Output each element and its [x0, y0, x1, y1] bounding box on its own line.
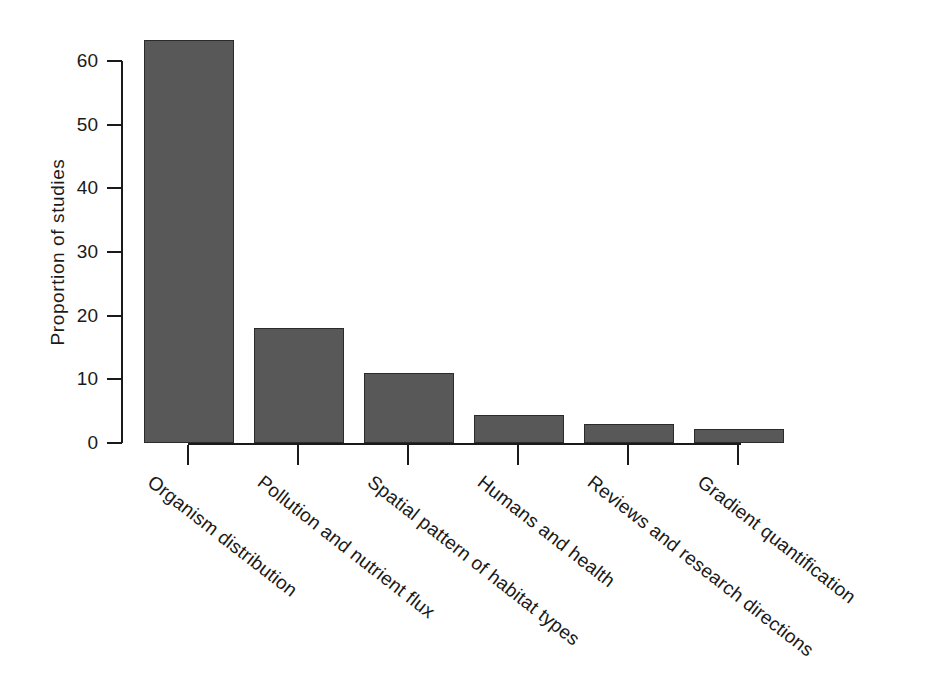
y-tick-label-text: 20	[40, 306, 98, 325]
y-tick-label-text: 0	[40, 433, 98, 452]
y-tick-mark	[107, 187, 122, 189]
y-tick-label-text: 30	[40, 242, 98, 261]
bar-chart: Proportion of studies 0102030405060 Orga…	[0, 0, 937, 676]
x-axis-label: Spatial pattern of habitat types	[364, 472, 583, 649]
y-tick-mark	[107, 251, 122, 253]
y-tick-label: 40	[40, 178, 98, 198]
y-tick-mark	[107, 378, 122, 380]
y-tick-label-text: 40	[40, 178, 98, 197]
y-tick-label: 20	[40, 306, 98, 326]
y-tick-mark	[107, 60, 122, 62]
y-tick-label: 60	[40, 51, 98, 71]
bar	[694, 429, 784, 443]
y-tick-label: 50	[40, 115, 98, 135]
y-tick-label: 30	[40, 242, 98, 262]
x-tick-mark	[737, 445, 739, 465]
x-tick-mark	[297, 445, 299, 465]
y-tick-mark	[107, 124, 122, 126]
x-tick-mark	[407, 445, 409, 465]
x-axis-line	[188, 443, 741, 445]
bar	[474, 415, 564, 443]
bar	[144, 40, 234, 443]
y-tick-label: 0	[40, 433, 98, 453]
x-tick-mark	[627, 445, 629, 465]
y-tick-mark	[107, 442, 122, 444]
x-tick-mark	[517, 445, 519, 465]
y-tick-label-text: 60	[40, 51, 98, 70]
bar	[364, 373, 454, 443]
y-tick-label: 10	[40, 369, 98, 389]
y-tick-mark	[107, 315, 122, 317]
x-axis-label: Pollution and nutrient flux	[254, 472, 438, 622]
bar	[254, 328, 344, 443]
y-tick-label-text: 50	[40, 115, 98, 134]
x-axis-label: Reviews and research directions	[584, 472, 817, 660]
y-tick-label-text: 10	[40, 369, 98, 388]
x-tick-mark	[187, 445, 189, 465]
bar	[584, 424, 674, 443]
